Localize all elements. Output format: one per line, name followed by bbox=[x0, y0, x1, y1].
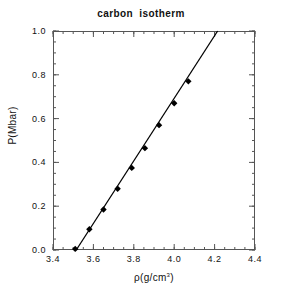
data-point-marker bbox=[156, 122, 162, 128]
fit-line bbox=[76, 31, 217, 250]
y-tick-label: 1.0 bbox=[20, 26, 46, 36]
x-major-ticks bbox=[53, 31, 255, 250]
y-major-ticks bbox=[53, 31, 255, 250]
x-tick-label: 4.4 bbox=[248, 254, 262, 264]
data-point-marker bbox=[72, 246, 78, 252]
data-points bbox=[72, 78, 192, 252]
y-axis-label: P(Mbar) bbox=[7, 86, 18, 166]
x-tick-label: 3.8 bbox=[127, 254, 141, 264]
y-tick-label: 0.6 bbox=[20, 114, 46, 124]
y-tick-label: 0.8 bbox=[20, 70, 46, 80]
x-axis-label-close: ) bbox=[170, 272, 174, 283]
x-axis-label-base: ρ(g/cm bbox=[134, 272, 167, 283]
data-point-marker bbox=[129, 165, 135, 171]
y-minor-ticks bbox=[53, 31, 255, 250]
fit-line-segment bbox=[76, 31, 217, 250]
chart-figure: carbon isotherm 3.43.63.84.04.24.4 0.00.… bbox=[0, 0, 282, 298]
x-tick-label: 3.4 bbox=[46, 254, 60, 264]
x-axis-label: ρ(g/cm3) bbox=[53, 272, 255, 283]
y-tick-label: 0.0 bbox=[20, 245, 46, 255]
x-tick-label: 4.2 bbox=[208, 254, 222, 264]
x-tick-label: 3.6 bbox=[86, 254, 100, 264]
x-minor-ticks bbox=[53, 31, 255, 250]
y-tick-label: 0.2 bbox=[20, 201, 46, 211]
x-tick-label: 4.0 bbox=[167, 254, 181, 264]
data-point-marker bbox=[114, 185, 120, 191]
y-tick-label: 0.4 bbox=[20, 157, 46, 167]
